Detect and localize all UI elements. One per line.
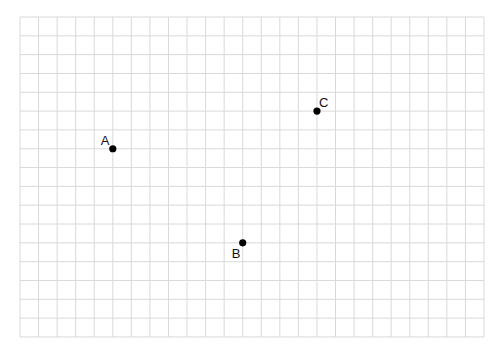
point-label: B bbox=[232, 246, 241, 261]
point-marker bbox=[109, 145, 116, 152]
point-label: C bbox=[319, 95, 328, 110]
background bbox=[0, 0, 501, 354]
coordinate-grid-diagram: ABC bbox=[0, 0, 501, 354]
point-label: A bbox=[101, 133, 110, 148]
